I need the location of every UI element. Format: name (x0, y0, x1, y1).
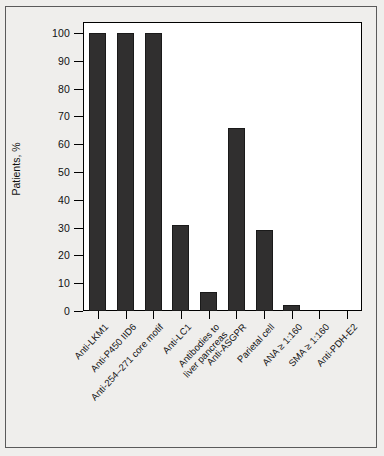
bar-slot (112, 23, 140, 311)
bar (283, 305, 300, 311)
bar-slot (250, 23, 278, 311)
bar (172, 225, 189, 311)
bar (89, 33, 106, 311)
bar (145, 33, 162, 311)
bar (200, 292, 217, 311)
bar-slot (306, 23, 334, 311)
figure-container: Patients, % 0102030405060708090100Anti-L… (0, 0, 384, 456)
bar-slot (195, 23, 223, 311)
bar-slot (223, 23, 251, 311)
bar-slot (167, 23, 195, 311)
bar-slot (84, 23, 112, 311)
bars-layer (84, 23, 361, 311)
bar (117, 33, 134, 311)
bar-slot (278, 23, 306, 311)
bar (228, 128, 245, 311)
bar-slot (333, 23, 361, 311)
bar (256, 230, 273, 311)
bar-slot (139, 23, 167, 311)
